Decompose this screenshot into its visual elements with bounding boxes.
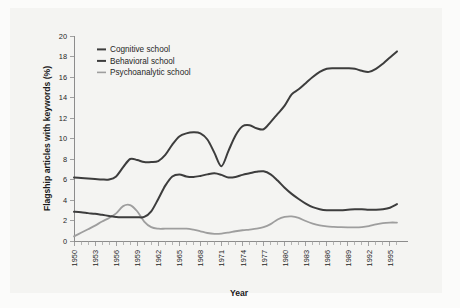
legend-label: Psychoanalytic school	[110, 68, 191, 77]
x-tick-label: 1950	[70, 250, 79, 266]
x-tick-label: 1974	[239, 250, 248, 266]
y-tick-label: 12	[59, 114, 67, 123]
x-tick-label: 1986	[323, 250, 332, 266]
x-tick-label: 1971	[217, 250, 226, 266]
legend-label: Behavioral school	[110, 57, 175, 66]
x-tick-label: 1959	[133, 250, 142, 266]
y-tick-label: 10	[59, 134, 67, 143]
x-tick-label: 1956	[112, 250, 121, 266]
x-tick-label: 1992	[365, 250, 374, 266]
x-tick-label: 1953	[91, 250, 100, 266]
legend-label: Cognitive school	[110, 45, 170, 54]
series-line-behavioral-school	[74, 171, 397, 217]
x-tick-label: 1995	[386, 250, 395, 266]
y-axis-title: Flagship articles with keywords (%)	[42, 66, 52, 211]
chart-figure: 02468101214161820 1950195319561959196219…	[0, 0, 460, 308]
x-axis-title: Year	[230, 288, 249, 298]
chart-legend: Cognitive schoolBehavioral schoolPsychoa…	[97, 45, 191, 77]
y-tick-label: 14	[59, 93, 67, 102]
y-tick-label: 20	[59, 32, 67, 41]
y-tick-label: 2	[63, 216, 67, 225]
x-tick-label: 1980	[281, 250, 290, 266]
y-tick-label: 0	[63, 237, 67, 246]
x-tick-label: 1965	[175, 250, 184, 266]
y-tick-label: 4	[63, 196, 67, 205]
y-axis: 02468101214161820	[59, 32, 74, 246]
y-tick-label: 18	[59, 52, 67, 61]
x-tick-label: 1962	[154, 250, 163, 266]
x-tick-label: 1989	[344, 250, 353, 266]
y-tick-label: 6	[63, 175, 67, 184]
y-tick-label: 16	[59, 73, 67, 82]
x-axis: 1950195319561959196219651968197119741977…	[70, 241, 408, 266]
series-lines	[74, 51, 397, 236]
x-tick-label: 1977	[260, 250, 269, 266]
line-chart: 02468101214161820 1950195319561959196219…	[0, 0, 460, 308]
x-tick-label: 1983	[302, 250, 311, 266]
y-tick-label: 8	[63, 155, 67, 164]
x-tick-label: 1968	[196, 250, 205, 266]
